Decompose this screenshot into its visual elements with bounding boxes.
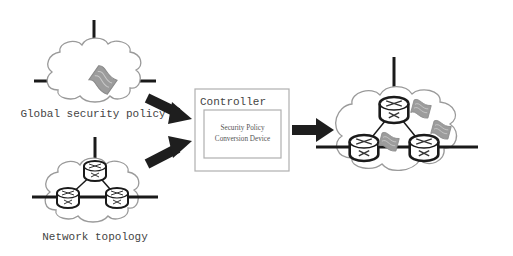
policy-cloud-group bbox=[34, 20, 156, 102]
router-icon bbox=[380, 97, 409, 123]
device-label-line1: Security Policy bbox=[220, 124, 265, 132]
conversion-device-box bbox=[204, 110, 281, 158]
cloud-icon bbox=[47, 38, 141, 102]
arrow-right-icon bbox=[292, 118, 334, 142]
arrow-right-up-icon bbox=[147, 136, 192, 164]
router-icon bbox=[57, 188, 79, 208]
diagram-canvas: Global security policy Network topology … bbox=[0, 0, 513, 256]
device-label-line2: Conversion Device bbox=[215, 135, 270, 143]
topology-label: Network topology bbox=[42, 231, 148, 243]
router-icon bbox=[84, 161, 106, 181]
policy-label: Global security policy bbox=[20, 108, 166, 120]
controller-title: Controller bbox=[200, 96, 266, 108]
router-icon bbox=[106, 188, 128, 208]
router-icon bbox=[350, 135, 379, 161]
enforced-network-group bbox=[316, 57, 478, 170]
topology-cloud-group bbox=[32, 137, 158, 222]
router-icon bbox=[410, 135, 439, 161]
